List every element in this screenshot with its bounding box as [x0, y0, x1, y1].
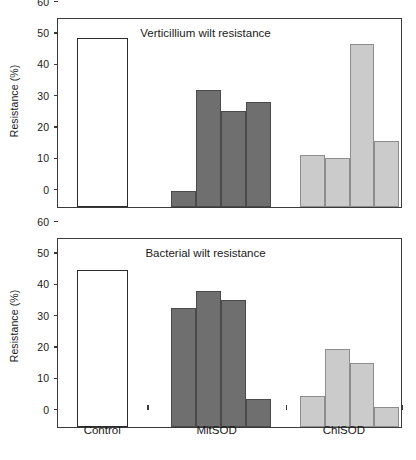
y-tick-60: 60	[37, 212, 58, 230]
bar-control-1	[77, 38, 128, 207]
y-tick-30: 30	[37, 86, 58, 104]
y-tick-label: 60	[37, 216, 54, 228]
y-tick-mark	[54, 32, 58, 33]
y-tick-mark	[54, 315, 58, 316]
bar-mitsod-1	[171, 308, 196, 427]
bar-chlsod-2	[325, 349, 350, 427]
y-tick-10: 10	[37, 369, 58, 387]
figure-resistance-bar-charts: Resistance (%) Verticillium wilt resista…	[0, 0, 416, 460]
bar-chlsod-2	[325, 158, 350, 207]
bar-control-1	[77, 270, 128, 427]
y-tick-30: 30	[37, 306, 58, 324]
bar-mitsod-4	[246, 102, 271, 207]
bar-mitsod-1	[171, 191, 196, 207]
y-tick-label: 40	[37, 58, 54, 70]
bar-chlsod-3	[350, 44, 375, 207]
x-axis-label-mitsod: MitSOD	[196, 424, 236, 436]
bar-mitsod-3	[221, 111, 246, 207]
x-tick-mark-2	[286, 405, 287, 410]
y-tick-mark	[54, 158, 58, 159]
bar-mitsod-3	[221, 300, 246, 427]
y-tick-label: 10	[37, 152, 54, 164]
panel-bacterial: Resistance (%) Bacterial wilt resistance…	[0, 225, 416, 425]
y-tick-mark	[54, 221, 58, 222]
x-axis-label-chlsod: ChlSOD	[323, 424, 365, 436]
y-tick-label: 40	[37, 278, 54, 290]
y-tick-mark	[54, 346, 58, 347]
y-tick-label: 30	[37, 310, 54, 322]
y-tick-50: 50	[37, 23, 58, 41]
bar-mitsod-4	[246, 399, 271, 427]
y-tick-mark	[54, 64, 58, 65]
y-tick-mark	[54, 189, 58, 190]
x-tick-mark-3	[402, 405, 403, 410]
y-tick-mark	[54, 378, 58, 379]
plot-frame-top: Verticillium wilt resistance 01020304050…	[57, 18, 402, 208]
y-tick-mark	[54, 126, 58, 127]
x-axis: ControlMitSODChlSOD	[57, 428, 402, 458]
y-tick-40: 40	[37, 275, 58, 293]
bar-chlsod-1	[300, 155, 325, 207]
y-tick-label: 20	[37, 121, 54, 133]
bar-chlsod-1	[300, 396, 325, 427]
y-tick-label: 50	[37, 247, 54, 259]
y-tick-0: 0	[43, 180, 58, 198]
y-axis-title-top: Resistance (%)	[8, 41, 20, 161]
y-tick-label: 10	[37, 372, 54, 384]
plot-frame-bottom: Bacterial wilt resistance 0102030405060	[57, 238, 402, 428]
y-tick-label: 30	[37, 90, 54, 102]
x-axis-label-control: Control	[84, 424, 121, 436]
y-tick-label: 0	[43, 184, 54, 196]
y-tick-label: 20	[37, 341, 54, 353]
y-tick-mark	[54, 95, 58, 96]
y-axis-title-bottom: Resistance (%)	[8, 266, 20, 386]
y-tick-60: 60	[37, 0, 58, 10]
y-tick-20: 20	[37, 117, 58, 135]
bar-mitsod-2	[196, 90, 221, 208]
y-tick-mark	[54, 1, 58, 2]
y-tick-10: 10	[37, 149, 58, 167]
y-tick-mark	[54, 284, 58, 285]
y-tick-0: 0	[43, 400, 58, 418]
x-tick-mark-1	[147, 405, 148, 410]
plot-area-top	[58, 19, 401, 207]
y-tick-20: 20	[37, 337, 58, 355]
bar-chlsod-3	[350, 363, 375, 427]
bar-chlsod-4	[374, 141, 399, 207]
x-tick-mark-0	[57, 405, 58, 410]
y-tick-50: 50	[37, 243, 58, 261]
bar-mitsod-2	[196, 291, 221, 427]
y-tick-label: 50	[37, 27, 54, 39]
bar-chlsod-4	[374, 407, 399, 427]
plot-area-bottom	[58, 239, 401, 427]
panel-verticillium: Resistance (%) Verticillium wilt resista…	[0, 0, 416, 225]
y-tick-mark	[54, 252, 58, 253]
y-tick-label: 0	[43, 404, 54, 416]
y-tick-40: 40	[37, 55, 58, 73]
y-tick-label: 60	[37, 0, 54, 8]
